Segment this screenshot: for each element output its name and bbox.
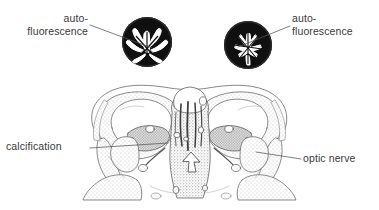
leader-optic-nerve [256,152,301,159]
leader-auto-right [238,26,290,47]
leader-lines-layer [0,0,379,210]
figure-root: auto- fluorescence auto- fluorescence ca… [0,0,379,210]
leader-auto-left [90,25,152,48]
leader-calcification [90,143,168,148]
